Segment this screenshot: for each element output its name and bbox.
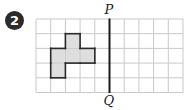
- reflection-grid-diagram: [0, 0, 188, 110]
- label-q: Q: [104, 93, 115, 108]
- label-p: P: [105, 2, 114, 17]
- shape-cell: [65, 34, 80, 49]
- shape-cell: [80, 48, 95, 63]
- shape-cell: [51, 48, 66, 63]
- shape-cell: [65, 48, 80, 63]
- shape-cell: [51, 63, 66, 78]
